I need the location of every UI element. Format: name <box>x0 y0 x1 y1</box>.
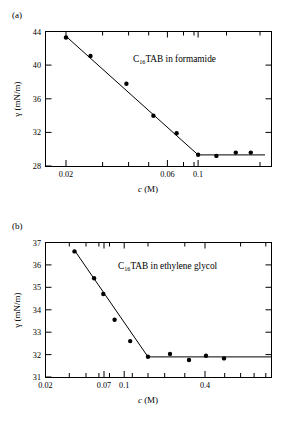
panel-a-plot: 28 32 36 40 44 <box>0 0 282 211</box>
data-point <box>64 35 68 39</box>
data-point <box>187 358 191 362</box>
svg-text:36: 36 <box>33 95 41 104</box>
svg-text:32: 32 <box>33 128 41 137</box>
panel-a-x-ticklabels: 0.02 0.06 0.1 <box>59 170 203 179</box>
svg-text:33: 33 <box>33 328 41 337</box>
panel-b-y-ticks-right <box>266 265 272 355</box>
panel-b-plot: 31 32 33 34 35 36 37 <box>0 211 282 422</box>
panel-a-y-axis-title: γ (mN/m) <box>12 81 22 117</box>
data-point <box>151 114 155 118</box>
data-point <box>128 339 132 343</box>
panel-b: (b) 31 32 33 34 35 36 37 <box>0 211 282 422</box>
panel-b-x-ticklabels: 0.02 0.07 0.1 0.4 <box>38 381 210 390</box>
data-point <box>196 153 200 157</box>
svg-text:0.02: 0.02 <box>59 170 73 179</box>
data-point <box>204 354 208 358</box>
panel-b-x-ticks-top <box>69 243 265 249</box>
svg-text:c (M): c (M) <box>138 395 158 405</box>
panel-b-annotation: C16TAB in ethylene glycol <box>118 261 218 272</box>
svg-text:36: 36 <box>33 261 41 270</box>
svg-text:37: 37 <box>33 239 41 248</box>
svg-text:32: 32 <box>33 351 41 360</box>
svg-text:34: 34 <box>33 306 41 315</box>
panel-b-x-ticks-minor <box>69 373 265 377</box>
svg-text:28: 28 <box>33 162 41 171</box>
panel-b-y-ticks <box>46 243 52 378</box>
data-point <box>174 131 178 135</box>
svg-text:γ (mN/m): γ (mN/m) <box>12 81 22 117</box>
svg-text:γ (mN/m): γ (mN/m) <box>12 292 22 328</box>
panel-a-y-ticklabels: 28 32 36 40 44 <box>33 28 41 172</box>
panel-a-axes-frame <box>46 32 272 167</box>
data-point <box>214 154 218 158</box>
panel-a-x-ticks-minor <box>103 162 260 166</box>
panel-b-x-axis-title: c (M) <box>138 395 158 405</box>
panel-a-x-ticks-major <box>66 160 198 166</box>
figure-surface-tension-cmc: (a) 28 32 36 40 44 <box>0 0 282 422</box>
svg-text:35: 35 <box>33 283 41 292</box>
data-point <box>101 292 105 296</box>
panel-a-x-axis-title: c (M) <box>138 184 158 194</box>
data-point <box>234 150 238 154</box>
panel-a-y-ticks <box>46 32 52 167</box>
data-point <box>222 356 226 360</box>
svg-text:0.02: 0.02 <box>38 381 52 390</box>
panel-a: (a) 28 32 36 40 44 <box>0 0 282 211</box>
svg-text:40: 40 <box>33 61 41 70</box>
data-point <box>249 150 253 154</box>
data-point <box>124 82 128 86</box>
data-point <box>146 355 150 359</box>
svg-text:0.4: 0.4 <box>200 381 210 390</box>
svg-text:c (M): c (M) <box>138 184 158 194</box>
data-point <box>92 276 96 280</box>
svg-text:0.1: 0.1 <box>119 381 129 390</box>
svg-text:0.1: 0.1 <box>193 170 203 179</box>
panel-b-y-ticklabels: 31 32 33 34 35 36 37 <box>33 239 41 383</box>
data-point <box>112 318 116 322</box>
svg-text:0.07: 0.07 <box>97 381 111 390</box>
data-point <box>88 54 92 58</box>
panel-b-y-axis-title: γ (mN/m) <box>12 292 22 328</box>
svg-text:44: 44 <box>33 28 41 37</box>
svg-text:0.06: 0.06 <box>160 170 174 179</box>
panel-a-x-ticks-top <box>66 32 260 38</box>
data-point <box>72 249 76 253</box>
panel-a-annotation: C16TAB in formamide <box>133 54 216 65</box>
data-point <box>168 352 172 356</box>
panel-a-y-ticks-right <box>266 65 272 132</box>
